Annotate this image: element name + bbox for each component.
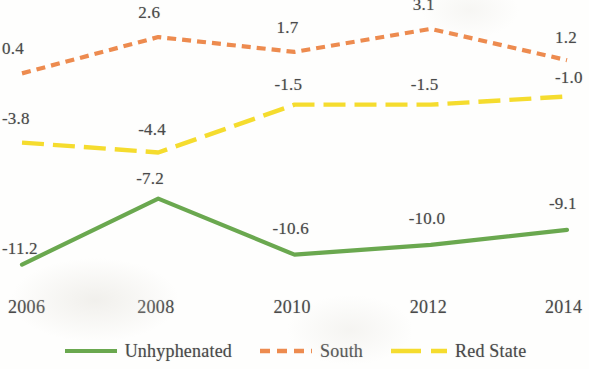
x-tick-label-2012: 2012 xyxy=(410,297,447,318)
legend-swatch-south xyxy=(258,345,314,357)
data-label-red_state-2006: -3.8 xyxy=(2,109,30,129)
data-label-unhyphenated-2010: -10.6 xyxy=(273,219,309,239)
legend-item-unhyphenated[interactable]: Unhyphenated xyxy=(63,341,232,362)
data-label-south-2012: 3.1 xyxy=(413,0,435,15)
data-label-south-2010: 1.7 xyxy=(277,18,299,38)
data-label-red_state-2010: -1.5 xyxy=(275,75,303,95)
data-label-south-2014: 1.2 xyxy=(555,28,577,48)
chart-legend: Unhyphenated South Red State xyxy=(0,334,589,368)
legend-label-red-state: Red State xyxy=(455,341,526,362)
legend-swatch-unhyphenated xyxy=(63,345,119,357)
data-label-unhyphenated-2006: -11.2 xyxy=(2,239,38,259)
series-red-state xyxy=(22,96,567,152)
data-label-south-2006: 0.4 xyxy=(2,39,24,59)
x-tick-label-2008: 2008 xyxy=(137,297,174,318)
x-tick-label-2014: 2014 xyxy=(545,297,582,318)
data-label-unhyphenated-2008: -7.2 xyxy=(136,169,164,189)
data-label-red_state-2012: -1.5 xyxy=(411,75,439,95)
data-label-red_state-2008: -4.4 xyxy=(138,120,166,140)
legend-swatch-red-state xyxy=(389,345,449,357)
data-label-unhyphenated-2014: -9.1 xyxy=(549,194,577,214)
legend-item-south[interactable]: South xyxy=(258,341,363,362)
data-label-red_state-2014: -1.0 xyxy=(555,68,583,88)
line-chart: -11.2-7.2-10.6-10.0-9.10.42.61.73.11.2-3… xyxy=(0,0,589,369)
data-label-unhyphenated-2012: -10.0 xyxy=(409,209,445,229)
x-tick-label-2010: 2010 xyxy=(274,297,311,318)
data-label-south-2008: 2.6 xyxy=(138,3,160,23)
legend-label-south: South xyxy=(320,341,363,362)
legend-item-red-state[interactable]: Red State xyxy=(389,341,526,362)
line-red-state xyxy=(22,96,567,152)
x-tick-label-2006: 2006 xyxy=(8,297,45,318)
legend-label-unhyphenated: Unhyphenated xyxy=(125,341,232,362)
